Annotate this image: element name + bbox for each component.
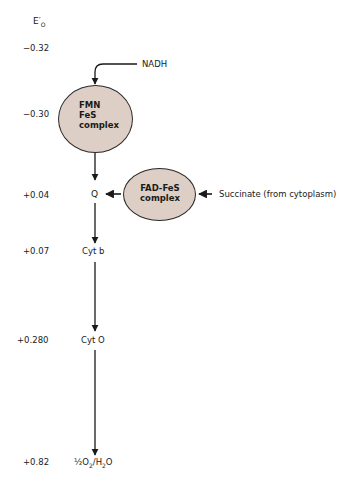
succinate-label: Succinate (from cytoplasm)	[219, 190, 336, 199]
nadh-arrow	[95, 64, 137, 84]
axis-label: E′O	[33, 17, 45, 28]
nadh-label: NADH	[142, 60, 167, 69]
potential-label: +0.04	[23, 191, 49, 200]
connector-arrows	[0, 0, 343, 480]
cyt-o-label: Cyt O	[81, 336, 105, 345]
potential-label: +0.07	[23, 247, 49, 256]
q-label: Q	[91, 190, 98, 199]
fad-fes-complex-label: FAD-FeS complex	[140, 183, 180, 203]
fmn-fes-complex-label: FMN FeS complex	[79, 100, 119, 131]
cyt-b-label: Cyt b	[82, 247, 104, 256]
potential-label: −0.30	[23, 110, 49, 119]
potential-label: +0.280	[17, 336, 48, 345]
oxygen-water-label: ½O2/H2O	[74, 458, 113, 469]
potential-label: −0.32	[23, 44, 49, 53]
potential-label: +0.82	[23, 458, 49, 467]
